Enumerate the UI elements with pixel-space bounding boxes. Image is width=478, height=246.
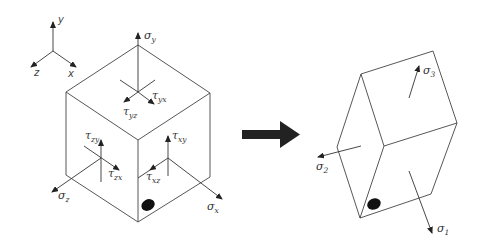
x-axis-label: x bbox=[67, 68, 74, 79]
orientation-marker-dot bbox=[139, 197, 157, 214]
sigma-1-label: σ1 bbox=[437, 222, 449, 237]
general-stress-cube: σy τyx τyz τzy τzx σz τxy τxz σx bbox=[52, 29, 222, 222]
sigma-x-arrow bbox=[168, 158, 222, 199]
sigma-1-arrow bbox=[409, 171, 432, 233]
stress-transformation-diagram: y z x σy τyx τyz τzy τzx σz τxy τxz σx bbox=[0, 0, 478, 246]
sigma-z-arrow bbox=[52, 158, 101, 192]
z-axis-arrow bbox=[31, 51, 53, 67]
principal-stress-cube: σ3 σ2 σ1 bbox=[316, 51, 457, 237]
sigma-3-arrow bbox=[409, 66, 419, 98]
top-face-line bbox=[120, 80, 138, 92]
tau-xz-arrow bbox=[150, 158, 168, 170]
coordinate-axes: y z x bbox=[31, 14, 76, 79]
tau-yz-arrow bbox=[124, 80, 155, 102]
tau-zy-label: τzy bbox=[85, 129, 100, 144]
tau-yx-label: τyx bbox=[152, 89, 167, 104]
x-axis-arrow bbox=[53, 51, 76, 67]
principal-cube-top-face bbox=[361, 51, 457, 146]
tau-yz-label: τyz bbox=[123, 105, 137, 120]
y-axis-label: y bbox=[57, 14, 65, 25]
sigma-z-label: σz bbox=[58, 189, 70, 204]
orientation-marker-dot bbox=[365, 196, 382, 212]
sigma-3-label: σ3 bbox=[423, 64, 436, 79]
sigma-2-label: σ2 bbox=[316, 160, 329, 175]
tau-xy-label: τxy bbox=[172, 129, 187, 144]
transform-arrow-icon bbox=[242, 121, 300, 148]
sigma-x-label: σx bbox=[207, 200, 220, 215]
sigma-y-label: σy bbox=[144, 29, 157, 44]
principal-cube-outline bbox=[337, 74, 457, 218]
z-axis-label: z bbox=[33, 67, 40, 78]
tau-zx-label: τzx bbox=[108, 167, 123, 182]
tau-xz-label: τxz bbox=[146, 170, 160, 185]
